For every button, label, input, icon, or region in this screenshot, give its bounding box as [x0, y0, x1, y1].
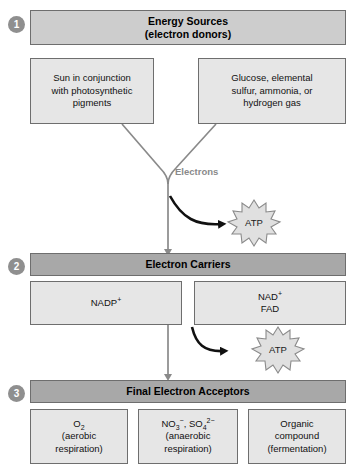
organic-line-1: Organic [280, 418, 313, 431]
chem-line-2: sulfur, ammonia, or [232, 85, 313, 98]
sun-line-3: pigments [73, 97, 112, 110]
atp-arrow-lower [192, 327, 224, 351]
step-badge-2: 2 [8, 258, 25, 275]
atp-arrow-upper [170, 196, 222, 224]
atp-label-upper: ATP [231, 201, 277, 243]
converge-connector [122, 124, 216, 252]
sun-line-1: Sun in conjunction [53, 72, 131, 85]
step-2-header: Electron Carriers [30, 253, 346, 276]
step-1-header-line2: (electron donors) [145, 28, 231, 41]
energy-flow-diagram: 1 Energy Sources (electron donors) Sun i… [0, 0, 357, 474]
step-3-header: Final Electron Acceptors [30, 380, 346, 403]
organic-line-2: compound [275, 430, 319, 443]
electron-carrier-box-nadp: NADP+ [30, 281, 182, 325]
anaerobic-line-2: (anaerobic [166, 430, 211, 443]
nad-label: NAD+ [258, 291, 282, 304]
step-1-header: Energy Sources (electron donors) [30, 10, 346, 45]
electron-carrier-box-nad-fad: NAD+ FAD [194, 281, 346, 325]
step-3-header-line1: Final Electron Acceptors [126, 385, 249, 398]
acceptor-box-organic: Organic compound (fermentation) [248, 409, 346, 464]
acceptor-box-nitrate-sulfate: NO3−, SO42− (anaerobic respiration) [138, 409, 238, 464]
anaerobic-line-3: respiration) [164, 443, 212, 456]
step-1-header-line1: Energy Sources [148, 15, 228, 28]
chem-line-1: Glucose, elemental [231, 72, 312, 85]
atp-label-lower: ATP [255, 328, 301, 370]
nadp-label: NADP+ [91, 297, 122, 310]
step-2-header-line1: Electron Carriers [145, 258, 230, 271]
step-badge-3: 3 [8, 385, 25, 402]
electrons-label: Electrons [175, 166, 218, 177]
step-badge-1: 1 [8, 16, 25, 33]
energy-source-box-chemicals: Glucose, elemental sulfur, ammonia, or h… [198, 58, 346, 124]
o2-formula: O2 [73, 418, 84, 431]
fad-label: FAD [261, 303, 279, 316]
chem-line-3: hydrogen gas [243, 97, 301, 110]
acceptor-box-oxygen: O2 (aerobic respiration) [30, 409, 128, 464]
atp-burst-upper: ATP [231, 201, 277, 243]
o2-line-2: (aerobic [62, 430, 96, 443]
energy-source-box-sun: Sun in conjunction with photosynthetic p… [30, 58, 154, 124]
o2-line-3: respiration) [55, 443, 103, 456]
atp-burst-lower: ATP [255, 328, 301, 370]
sun-line-2: with photosynthetic [52, 85, 133, 98]
organic-line-3: (fermentation) [267, 443, 326, 456]
nitrate-sulfate-formula: NO3−, SO42− [161, 418, 214, 431]
